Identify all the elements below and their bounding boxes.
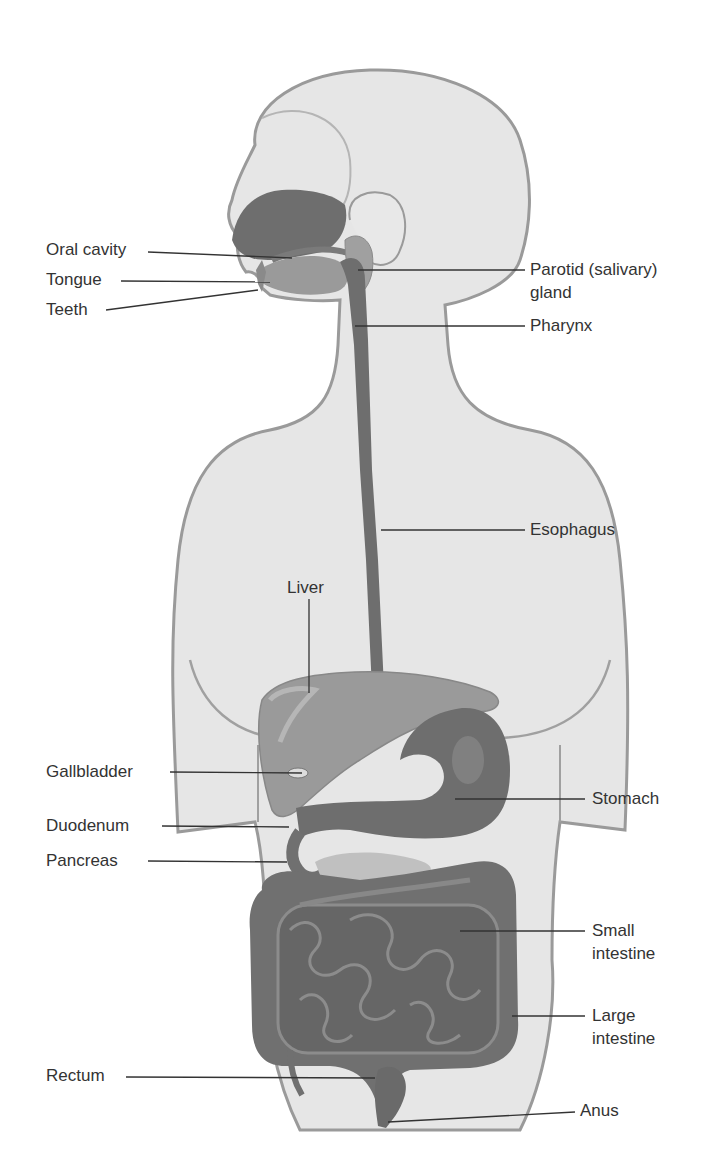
label-parotid-line1: Parotid (salivary)	[530, 258, 658, 281]
label-small-line2: intestine	[592, 942, 655, 965]
label-gallbladder: Gallbladder	[46, 762, 133, 782]
label-anus: Anus	[580, 1101, 619, 1121]
label-small-intestine: Small intestine	[592, 919, 655, 965]
label-parotid-gland: Parotid (salivary) gland	[530, 258, 658, 304]
label-small-line1: Small	[592, 919, 655, 942]
label-rectum: Rectum	[46, 1066, 105, 1086]
label-large-line1: Large	[592, 1004, 655, 1027]
label-pancreas: Pancreas	[46, 851, 118, 871]
label-stomach: Stomach	[592, 789, 659, 809]
small-intestine	[278, 880, 498, 1053]
label-pharynx: Pharynx	[530, 316, 592, 336]
label-esophagus: Esophagus	[530, 520, 615, 540]
label-teeth: Teeth	[46, 300, 88, 320]
label-large-line2: intestine	[592, 1027, 655, 1050]
label-duodenum: Duodenum	[46, 816, 129, 836]
digestive-system-figure	[0, 0, 726, 1172]
label-oral-cavity: Oral cavity	[46, 240, 126, 260]
label-tongue: Tongue	[46, 270, 102, 290]
label-large-intestine: Large intestine	[592, 1004, 655, 1050]
label-liver: Liver	[287, 578, 324, 598]
label-parotid-line2: gland	[530, 281, 658, 304]
